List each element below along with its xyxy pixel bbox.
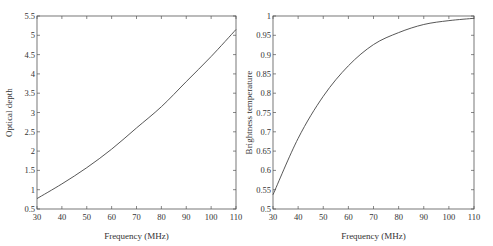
y-tick-label: 4.5 <box>24 50 35 60</box>
y-tick-label: 1 <box>31 185 35 195</box>
y-tick-label: 3.5 <box>24 88 35 98</box>
data-line <box>37 30 236 199</box>
x-tick-label: 50 <box>83 212 92 222</box>
x-tick-label: 50 <box>319 212 328 222</box>
x-axis-label: Frequency (MHz) <box>104 231 169 241</box>
axes-frame <box>37 16 236 209</box>
x-tick-label: 70 <box>369 212 378 222</box>
x-axis-label: Frequency (MHz) <box>341 231 406 241</box>
y-tick-label: 0.9 <box>260 50 271 60</box>
x-tick-label: 110 <box>230 212 242 222</box>
x-tick-label: 90 <box>182 212 191 222</box>
y-tick-label: 5 <box>31 30 35 40</box>
x-tick-label: 60 <box>344 212 353 222</box>
y-tick-label: 0.7 <box>260 127 271 137</box>
y-tick-label: 5.5 <box>24 11 35 21</box>
figure-svg: 304050607080901001100.511.522.533.544.55… <box>0 0 493 246</box>
y-tick-label: 1.5 <box>24 165 35 175</box>
x-tick-label: 80 <box>157 212 166 222</box>
x-tick-label: 40 <box>58 212 67 222</box>
x-tick-label: 60 <box>107 212 116 222</box>
y-tick-label: 0.6 <box>260 165 271 175</box>
y-axis-label: Brightness temperature <box>244 71 254 155</box>
y-tick-label: 4 <box>31 69 36 79</box>
x-tick-label: 100 <box>205 212 218 222</box>
y-tick-label: 2 <box>31 146 35 156</box>
x-tick-label: 90 <box>420 212 429 222</box>
y-tick-label: 0.65 <box>256 146 271 156</box>
y-tick-label: 0.8 <box>260 88 271 98</box>
x-tick-label: 70 <box>132 212 141 222</box>
y-tick-label: 0.75 <box>256 108 271 118</box>
y-tick-label: 0.5 <box>24 204 35 214</box>
x-tick-label: 80 <box>394 212 403 222</box>
data-line <box>273 18 474 194</box>
y-tick-label: 3 <box>31 108 35 118</box>
figure: 304050607080901001100.511.522.533.544.55… <box>0 0 493 246</box>
optical-depth-plot: 304050607080901001100.511.522.533.544.55… <box>4 11 242 241</box>
y-tick-label: 0.85 <box>256 69 271 79</box>
brightness-temperature-plot: 304050607080901001100.50.550.60.650.70.7… <box>244 11 480 241</box>
x-tick-label: 40 <box>294 212 303 222</box>
x-tick-label: 110 <box>468 212 480 222</box>
y-tick-label: 2.5 <box>24 127 35 137</box>
y-tick-label: 0.5 <box>260 204 271 214</box>
x-tick-label: 100 <box>443 212 456 222</box>
y-tick-label: 1 <box>267 11 271 21</box>
y-tick-label: 0.55 <box>256 185 271 195</box>
y-tick-label: 0.95 <box>256 30 271 40</box>
y-axis-label: Optical depth <box>4 88 14 137</box>
